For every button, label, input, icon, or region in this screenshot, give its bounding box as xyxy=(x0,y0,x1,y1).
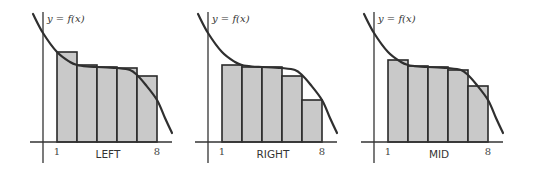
riemann-rectangle xyxy=(77,65,97,142)
riemann-rectangle xyxy=(428,67,448,142)
panel-right: y = f(x)18RIGHT xyxy=(195,12,337,163)
function-label: y = f(x) xyxy=(46,13,85,24)
riemann-rectangle xyxy=(408,66,428,142)
riemann-rectangle xyxy=(117,68,137,142)
function-label: y = f(x) xyxy=(211,13,250,24)
panel-left: y = f(x)18LEFT xyxy=(30,12,172,163)
panel-mid: y = f(x)18MID xyxy=(361,12,503,163)
riemann-rectangle xyxy=(242,67,262,142)
tick-label-start: 1 xyxy=(219,146,225,157)
tick-label-end: 8 xyxy=(485,146,491,157)
function-label: y = f(x) xyxy=(377,13,416,24)
riemann-rectangle xyxy=(222,65,242,142)
riemann-rectangle xyxy=(282,76,302,142)
panel-label: RIGHT xyxy=(257,148,290,160)
riemann-rectangle xyxy=(262,67,282,142)
riemann-rectangle xyxy=(302,100,322,142)
tick-label-end: 8 xyxy=(154,146,160,157)
panel-label: LEFT xyxy=(96,148,121,160)
tick-label-end: 8 xyxy=(319,146,325,157)
panel-label: MID xyxy=(429,148,449,160)
riemann-rectangle xyxy=(448,70,468,142)
riemann-rectangle xyxy=(57,52,77,142)
riemann-rectangle xyxy=(388,60,408,142)
riemann-sum-figure: y = f(x)18LEFTy = f(x)18RIGHTy = f(x)18M… xyxy=(0,0,534,170)
tick-label-start: 1 xyxy=(54,146,60,157)
tick-label-start: 1 xyxy=(385,146,391,157)
riemann-rectangle xyxy=(97,67,117,142)
